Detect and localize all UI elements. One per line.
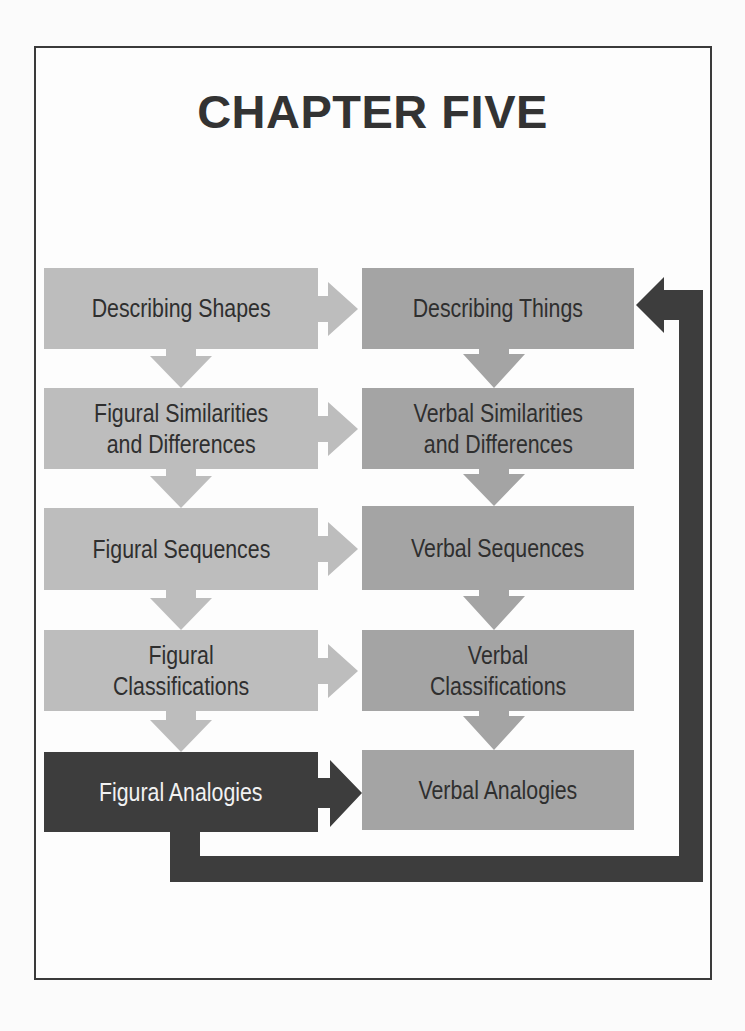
box-describing-shapes: Describing Shapes (44, 268, 318, 349)
box-label: Verbal Sequences (411, 533, 584, 564)
box-label: Figural Classifications (113, 640, 249, 702)
right-arrow-icon (318, 402, 358, 456)
right-arrows (318, 282, 358, 698)
box-label: Verbal Classifications (430, 640, 566, 702)
box-verbal-analogies: Verbal Analogies (362, 750, 634, 830)
right-arrow-icon (318, 644, 358, 698)
right-arrow-icon (318, 522, 358, 576)
right-arrow-dark-icon (318, 760, 362, 827)
right-arrow-icon (318, 282, 358, 336)
box-verbal-classifications: Verbal Classifications (362, 630, 634, 711)
box-verbal-sequences: Verbal Sequences (362, 506, 634, 590)
box-label: Figural Similarities and Differences (94, 398, 268, 460)
down-arrow-icon (463, 349, 525, 388)
box-figural-classifications: Figural Classifications (44, 630, 318, 711)
box-label: Figural Sequences (92, 534, 270, 565)
down-arrow-icon (150, 469, 212, 508)
box-figural-sequences: Figural Sequences (44, 508, 318, 590)
box-label: Describing Shapes (92, 293, 271, 324)
box-label: Verbal Analogies (419, 775, 578, 806)
down-arrow-icon (463, 711, 525, 750)
box-verbal-similarities: Verbal Similarities and Differences (362, 388, 634, 469)
box-label: Figural Analogies (99, 777, 263, 808)
box-figural-similarities: Figural Similarities and Differences (44, 388, 318, 469)
box-describing-things: Describing Things (362, 268, 634, 349)
down-arrow-icon (150, 590, 212, 630)
box-figural-analogies: Figural Analogies (44, 752, 318, 832)
down-arrow-icon (150, 349, 212, 388)
down-arrow-icon (463, 469, 525, 506)
box-label: Describing Things (413, 293, 583, 324)
down-arrow-icon (150, 711, 212, 752)
box-label: Verbal Similarities and Differences (413, 398, 582, 460)
down-arrow-icon (463, 590, 525, 630)
